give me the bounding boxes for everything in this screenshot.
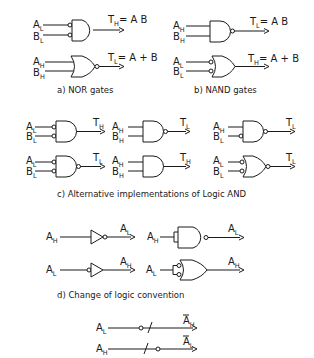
and-gate-icon [210,21,231,42]
inversion-bubble-icon [231,29,235,33]
line-e2: AH AL [96,336,197,357]
svg-text:AL: AL [120,223,131,237]
or-gate-icon [71,56,95,77]
gate-c4: AL BL TL [26,152,105,180]
svg-text:AL: AL [183,336,194,350]
output-label: TH= A B [107,14,148,28]
svg-text:AH: AH [46,231,58,245]
caption-d: d) Change of logic convention [57,290,184,300]
and-gate-icon [56,156,77,177]
inversion-bubble-icon [68,23,72,27]
gate-a1-and: AL BL TH= A B [33,14,148,45]
svg-text:AL: AL [46,264,57,278]
section-a: AL BL TH= A B AH BH TL= A + B a) NOR gat… [33,14,158,95]
or-gate-icon [212,56,235,77]
svg-text:AH: AH [120,256,132,270]
caption-c: c) Alternative implementations of Logic … [57,189,246,199]
inverter-icon [91,230,103,244]
output-label: TH= A + B [247,53,299,67]
logic-diagram: AL BL TH= A B AH BH TL= A + B a) NOR gat… [0,0,314,358]
gate-d3-buffer: AL AH [46,256,135,278]
svg-text:AL: AL [228,223,239,237]
input-label: BL [33,31,44,45]
svg-text:AH: AH [228,256,240,270]
gate-c2: AH BH TL [112,117,190,145]
and-gate-icon [243,121,264,142]
svg-text:TH: TH [92,117,104,131]
inversion-bubble-icon [95,65,99,69]
section-d: AH AL AH AL AL AH [46,223,244,300]
section-c: AL BL TH AH BH TL AH BL TL [26,117,296,199]
svg-text:TL: TL [92,152,103,166]
svg-text:AH: AH [183,315,195,329]
svg-text:AH: AH [147,231,159,245]
buffer-icon [91,263,103,277]
svg-text:AL: AL [146,264,157,278]
gate-c6: AL BL TL [213,152,296,180]
gate-d4-or: AL AH [146,256,244,280]
inversion-bubble-icon [209,60,213,64]
gate-c5: AH BH TH [112,152,191,180]
gate-d1-inverter: AH AL [46,223,135,245]
inversion-bubble-icon [68,33,72,37]
and-gate-icon [178,227,201,248]
svg-text:AH: AH [96,343,108,357]
gate-c3: AH BL TL [213,117,296,145]
section-e: AL AH AH AL [96,315,197,357]
caption-a: a) NOR gates [57,85,114,95]
line-e1: AL AH [96,315,197,336]
gate-a2-nor: AH BH TL= A + B [33,52,158,81]
gate-d2-nand: AH AL [147,223,244,248]
and-gate-icon [56,121,77,142]
svg-text:AL: AL [96,322,107,336]
and-gate-icon [72,20,90,41]
and-gate-icon [143,156,164,177]
output-label: TL= A + B [107,52,158,66]
caption-b: b) NAND gates [194,85,257,95]
svg-text:TL: TL [179,117,190,131]
output-label: TL= A B [249,16,288,30]
or-gate-icon [243,156,266,177]
or-gate-icon [180,260,207,280]
inversion-bubble-icon [209,69,213,73]
gate-b1-nand: AH BH TL= A B [173,16,288,45]
gate-c1: AL BL TH [26,117,105,145]
section-b: AH BH TL= A B AL BL TH= A + B b) NAND ga… [173,16,299,95]
and-gate-icon [143,121,164,142]
gate-b2-or: AL BL TH= A + B [173,53,299,80]
